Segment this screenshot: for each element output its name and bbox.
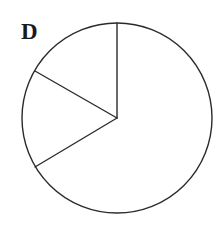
figure-label-d: D (21, 20, 38, 43)
figure-canvas: D (0, 0, 223, 227)
